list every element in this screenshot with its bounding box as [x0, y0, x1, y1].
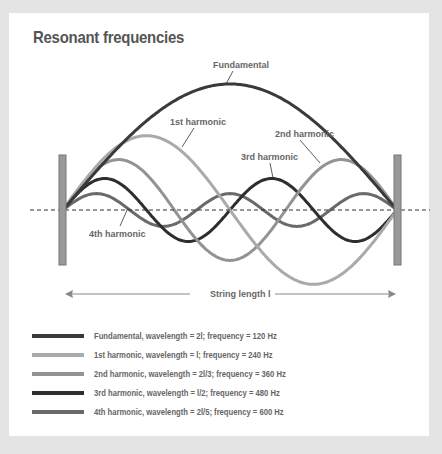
- legend-item: 4th harmonic, wavelength = 2l/5; frequen…: [32, 402, 307, 421]
- right-fixed-end: [394, 155, 401, 265]
- h1-leader: [182, 128, 194, 147]
- label-2nd-harmonic: 2nd harmonic: [275, 129, 334, 139]
- wave-curves: [63, 84, 397, 284]
- h3-leader: [270, 163, 273, 178]
- h4-leader: [120, 208, 128, 226]
- label-4th-harmonic: 4th harmonic: [89, 229, 146, 239]
- legend-swatch: [32, 372, 84, 376]
- arrow-left-icon: [65, 290, 73, 298]
- h2-leader: [300, 140, 320, 163]
- label-fundamental: Fundamental: [213, 60, 269, 70]
- fundamental-leader: [226, 71, 233, 84]
- legend-text: 3rd harmonic, wavelength = l/2; frequenc…: [94, 388, 280, 398]
- legend-item: 1st harmonic, wavelength = l; frequency …: [32, 345, 307, 364]
- legend-swatch: [32, 334, 84, 338]
- legend-item: 3rd harmonic, wavelength = l/2; frequenc…: [32, 383, 307, 402]
- left-fixed-end: [59, 155, 66, 265]
- legend-item: Fundamental, wavelength = 2l; frequency …: [32, 326, 307, 345]
- legend-swatch: [32, 391, 84, 395]
- label-1st-harmonic: 1st harmonic: [170, 117, 226, 127]
- legend-swatch: [32, 410, 84, 414]
- legend-text: 1st harmonic, wavelength = l; frequency …: [94, 350, 273, 360]
- legend-text: Fundamental, wavelength = 2l; frequency …: [94, 331, 277, 341]
- wave-fundamental: [63, 84, 397, 210]
- arrow-right-icon: [388, 290, 396, 298]
- legend: Fundamental, wavelength = 2l; frequency …: [32, 326, 307, 421]
- label-3rd-harmonic: 3rd harmonic: [241, 152, 298, 162]
- legend-item: 2nd harmonic, wavelength = 2l/3; frequen…: [32, 364, 307, 383]
- legend-text: 4th harmonic, wavelength = 2l/5; frequen…: [94, 407, 284, 417]
- legend-swatch: [32, 353, 84, 357]
- legend-text: 2nd harmonic, wavelength = 2l/3; frequen…: [94, 369, 286, 379]
- string-length-label: String length l: [210, 289, 271, 299]
